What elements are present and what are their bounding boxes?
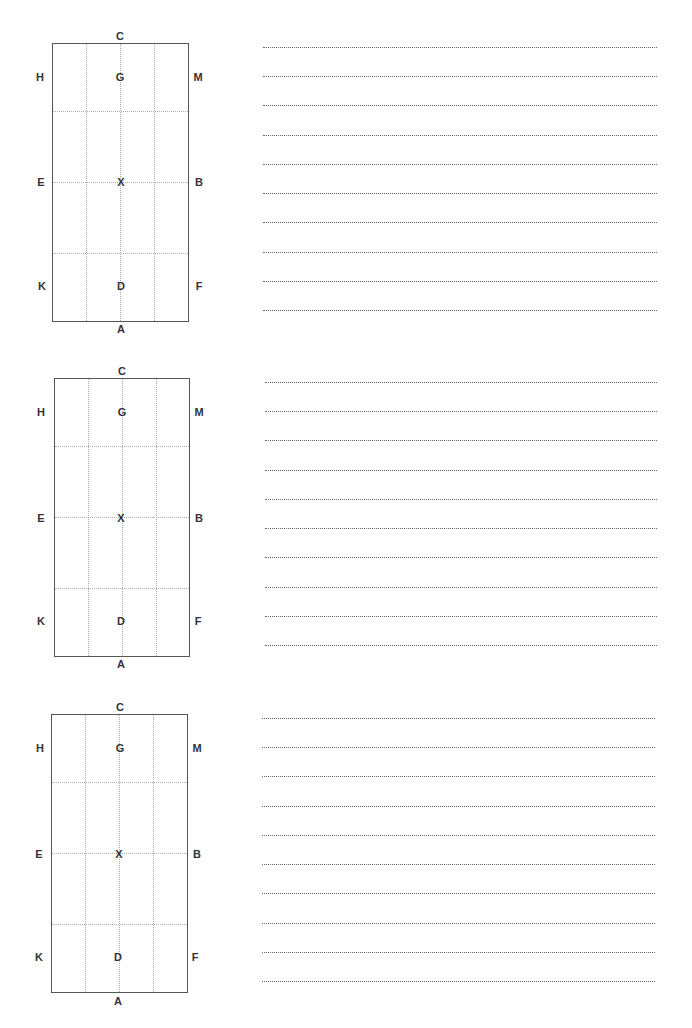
marker-g: G [116,72,125,83]
note-line[interactable] [263,310,657,311]
marker-e: E [37,513,44,524]
marker-d: D [117,616,125,627]
marker-m: M [194,407,203,418]
arena-divider [52,924,187,925]
note-line[interactable] [262,893,655,894]
marker-h: H [36,743,44,754]
marker-x: X [117,177,124,188]
marker-a: A [114,996,122,1007]
note-line[interactable] [262,747,655,748]
marker-k: K [37,616,45,627]
marker-a: A [117,659,125,670]
note-line[interactable] [265,382,657,383]
note-line[interactable] [265,470,657,471]
note-line[interactable] [265,557,657,558]
arena-section-3: C A H E K M B F G X D [0,671,692,1001]
note-line[interactable] [262,835,655,836]
marker-x: X [117,513,124,524]
note-line[interactable] [263,164,657,165]
note-line[interactable] [265,616,657,617]
notes-area[interactable] [265,382,657,652]
note-line[interactable] [265,587,657,588]
note-line[interactable] [262,806,655,807]
marker-x: X [115,849,122,860]
marker-d: D [114,952,122,963]
arena-divider [53,111,188,112]
arena-section-1: C A H E K M B F G X D [0,0,692,330]
marker-c: C [116,31,124,42]
marker-e: E [37,177,44,188]
note-line[interactable] [263,76,657,77]
marker-k: K [38,281,46,292]
marker-d: D [117,281,125,292]
note-line[interactable] [263,281,657,282]
note-line[interactable] [265,645,657,646]
marker-e: E [35,849,42,860]
note-line[interactable] [262,981,655,982]
arena-divider [53,253,188,254]
marker-f: F [192,952,199,963]
note-line[interactable] [265,528,657,529]
marker-b: B [195,177,203,188]
marker-b: B [193,849,201,860]
note-line[interactable] [263,135,657,136]
note-line[interactable] [265,499,657,500]
marker-a: A [117,324,125,335]
note-line[interactable] [262,776,655,777]
notes-area[interactable] [262,718,655,988]
note-line[interactable] [263,193,657,194]
note-line[interactable] [263,105,657,106]
marker-c: C [116,702,124,713]
marker-m: M [192,743,201,754]
marker-f: F [196,281,203,292]
marker-h: H [37,407,45,418]
notes-area[interactable] [263,47,657,317]
arena-divider [52,782,187,783]
note-line[interactable] [265,411,657,412]
note-line[interactable] [262,864,655,865]
note-line[interactable] [265,440,657,441]
marker-h: H [36,72,44,83]
note-line[interactable] [262,923,655,924]
marker-k: K [35,952,43,963]
arena-divider [55,446,189,447]
marker-f: F [195,616,202,627]
arena-divider [55,588,189,589]
note-line[interactable] [263,222,657,223]
note-line[interactable] [263,47,657,48]
arena-section-2: C A H E K M B F G X D [0,335,692,665]
marker-g: G [116,743,125,754]
marker-m: M [193,72,202,83]
marker-b: B [195,513,203,524]
note-line[interactable] [262,718,655,719]
marker-c: C [118,366,126,377]
note-line[interactable] [262,952,655,953]
note-line[interactable] [263,252,657,253]
marker-g: G [118,407,127,418]
